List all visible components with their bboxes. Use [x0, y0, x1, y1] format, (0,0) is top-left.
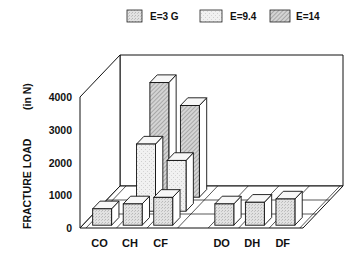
- x-category-label: CF: [153, 237, 168, 249]
- bar-do-e3g: [215, 196, 241, 225]
- legend-swatch-e9-4: [200, 10, 222, 22]
- x-category-label: DF: [275, 237, 290, 249]
- y-tick-label: 1000: [49, 189, 73, 201]
- bar-df-e3g: [276, 191, 302, 225]
- x-category-label: DH: [244, 237, 260, 249]
- y-axis-title: FRACTURE LOAD (in N): [21, 83, 33, 229]
- chart-canvas: E=3 G E=9.4 E=14 FRACTURE LOAD (in N) 01…: [0, 0, 359, 261]
- legend-swatch-e3: [127, 10, 142, 22]
- y-tick-label: 4000: [49, 91, 73, 103]
- chart-frame: [80, 55, 343, 228]
- legend: E=3 G E=9.4 E=14: [127, 10, 320, 22]
- y-axis-unit: (in N): [21, 83, 33, 110]
- legend-label-e14: E=14: [296, 11, 320, 22]
- legend-swatch-e14: [270, 10, 290, 22]
- bar-co-e3g: [93, 201, 119, 225]
- y-tick-label: 3000: [49, 124, 73, 136]
- x-category-label: CH: [122, 237, 138, 249]
- bar-cf-e3g: [154, 190, 180, 226]
- y-axis-ticks: 01000200030004000: [49, 91, 73, 234]
- x-axis-labels: COCHCFDODHDF: [91, 237, 290, 249]
- legend-label-e3: E=3 G: [150, 11, 179, 22]
- x-category-label: DO: [213, 237, 230, 249]
- y-tick-label: 0: [66, 222, 72, 234]
- bar-ch-e3g: [123, 196, 149, 225]
- y-tick-label: 2000: [49, 157, 73, 169]
- legend-label-e9-4: E=9.4: [230, 11, 257, 22]
- bar-dh-e3g: [245, 195, 271, 226]
- fracture-load-3d-bar-chart: E=3 G E=9.4 E=14 FRACTURE LOAD (in N) 01…: [0, 0, 359, 261]
- x-category-label: CO: [91, 237, 108, 249]
- y-axis-label: FRACTURE LOAD: [21, 138, 33, 229]
